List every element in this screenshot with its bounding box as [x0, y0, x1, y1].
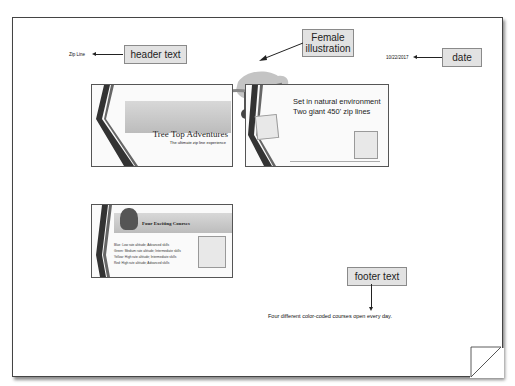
slide-text: Set in natural environment Two giant 450…: [293, 97, 381, 117]
arrow-icon: [369, 307, 373, 311]
callout-female-illustration: Female illustration: [302, 29, 354, 57]
slide-subtitle: The ultimate zip line experience: [170, 140, 226, 145]
slide-title: Four Exciting Courses: [142, 221, 190, 226]
slide-line-1: Set in natural environment: [293, 97, 381, 107]
date-arrow-line: [416, 57, 442, 58]
slide-thumbnail-2[interactable]: Set in natural environment Two giant 450…: [245, 84, 389, 167]
callout-date: date: [442, 48, 482, 67]
header-text: Zip Line: [69, 52, 85, 57]
header-arrow-line: [95, 54, 123, 55]
footer-arrow-line: [371, 284, 372, 308]
arrow-icon: [92, 52, 96, 56]
arrow-icon: [413, 55, 417, 59]
slide-line-2: Two giant 450' zip lines: [293, 107, 381, 117]
slide-thumbnail-3[interactable]: Four Exciting Courses Blue: Low rate alt…: [91, 204, 233, 278]
callout-footer-text: footer text: [347, 267, 407, 286]
callout-header-text: header text: [124, 45, 187, 64]
slide-divider: [290, 161, 380, 162]
zipliner-illustration: [120, 208, 138, 230]
footer-text: Four different color-coded courses open …: [268, 313, 392, 319]
photo-ziplines: [354, 131, 378, 159]
slide-title: Tree Top Adventures: [153, 129, 228, 139]
page-curl-fold: [468, 344, 508, 380]
bullet-item: Red: High rate altitude; Advanced skills: [114, 260, 181, 266]
bullet-list: Blue: Low rate altitude; Advanced skills…: [114, 242, 181, 266]
slide-thumbnail-1[interactable]: Tree Top Adventures The ultimate zip lin…: [91, 84, 233, 167]
date-text: 10/22/2017: [386, 55, 409, 60]
photo-zipliner: [255, 114, 279, 140]
photo-courses: [198, 236, 226, 268]
